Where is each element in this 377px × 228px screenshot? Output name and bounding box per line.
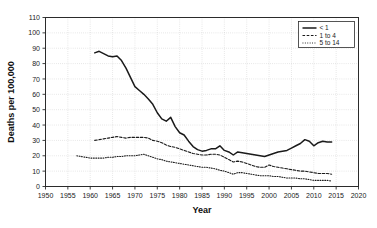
y-axis-tick-label: 10: [32, 168, 40, 175]
x-axis-tick-label: 2005: [284, 192, 300, 199]
x-axis-tick-label: 1980: [172, 192, 188, 199]
y-axis-tick-label: 80: [32, 60, 40, 67]
x-axis-tick-label: 1975: [149, 192, 165, 199]
y-axis-tick-label: 90: [32, 45, 40, 52]
x-axis-tick-label: 2010: [306, 192, 322, 199]
x-axis-tick-label: 1985: [194, 192, 210, 199]
x-axis-tick-label: 1995: [239, 192, 255, 199]
x-axis-tick-label: 1950: [38, 192, 54, 199]
y-axis-tick-label: 20: [32, 152, 40, 159]
y-axis-tick-label: 100: [28, 29, 40, 36]
legend-label-2: 5 to 14: [320, 39, 340, 46]
x-axis-tick-label: 2000: [261, 192, 277, 199]
x-axis-title: Year: [192, 205, 212, 215]
y-axis-tick-label: 30: [32, 137, 40, 144]
y-axis-tick-label: 60: [32, 91, 40, 98]
x-axis-tick-label: 1960: [82, 192, 98, 199]
y-axis-tick-label: 50: [32, 106, 40, 113]
y-axis-tick-label: 70: [32, 76, 40, 83]
series-line-2: [77, 154, 332, 181]
line-chart: 1950195519601965197019751980198519901995…: [0, 0, 377, 228]
legend-label-1: 1 to 4: [320, 32, 337, 39]
x-axis-tick-label: 1970: [127, 192, 143, 199]
x-axis-tick-label: 2015: [328, 192, 344, 199]
x-axis-tick-label: 1965: [105, 192, 121, 199]
x-axis-tick-label: 2020: [351, 192, 367, 199]
y-axis-tick-label: 40: [32, 122, 40, 129]
x-axis-tick-label: 1955: [60, 192, 76, 199]
y-axis-tick-label: 110: [29, 14, 40, 21]
series-line-0: [95, 51, 332, 156]
legend-label-0: < 1: [320, 24, 330, 31]
x-axis-tick-label: 1990: [217, 192, 233, 199]
y-axis-title: Deaths per 100,000: [6, 61, 16, 143]
y-axis-tick-label: 0: [36, 183, 40, 190]
chart-figure: 1950195519601965197019751980198519901995…: [0, 0, 377, 228]
